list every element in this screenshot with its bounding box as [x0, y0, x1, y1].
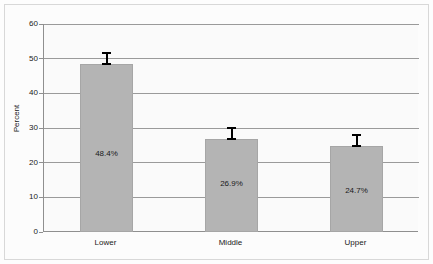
gridline: [44, 58, 419, 59]
error-bar-cap-top: [102, 52, 111, 54]
x-axis-tick-label: Upper: [316, 238, 396, 247]
error-bar-cap-top: [352, 134, 361, 136]
bar-value-label: 24.7%: [331, 187, 382, 195]
bar-value-label: 26.9%: [206, 180, 257, 188]
bar-value-label: 48.4%: [81, 150, 132, 158]
error-bar-cap-bottom: [102, 63, 111, 65]
figure: Percent 0102030405060 48.4%26.9%24.7% Lo…: [0, 0, 433, 264]
error-bar: [352, 134, 361, 147]
y-axis-tick-label: 30: [14, 124, 38, 132]
y-axis-tick-label: 50: [14, 55, 38, 63]
plot-area: 48.4%26.9%24.7%: [43, 24, 418, 232]
error-bar-cap-bottom: [352, 145, 361, 147]
error-bar-cap-top: [227, 127, 236, 129]
bar: 48.4%: [80, 64, 133, 232]
bar: 24.7%: [330, 146, 383, 232]
y-axis-tick-label: 40: [14, 89, 38, 97]
y-axis-tick-label: 0: [14, 228, 38, 236]
x-axis-tick-label: Lower: [66, 238, 146, 247]
gridline: [44, 24, 419, 25]
error-bar: [102, 52, 111, 65]
y-axis-title: Percent: [12, 97, 21, 141]
x-axis-tick-label: Middle: [191, 238, 271, 247]
error-bar: [227, 127, 236, 140]
error-bar-cap-bottom: [227, 138, 236, 140]
y-axis-tick-label: 10: [14, 193, 38, 201]
y-axis-tick-label: 60: [14, 20, 38, 28]
y-axis-tick-label: 20: [14, 159, 38, 167]
bar: 26.9%: [205, 139, 258, 232]
